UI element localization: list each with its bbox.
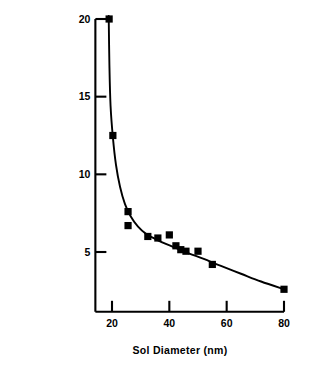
x-tick-label: 20 [106,317,118,329]
x-tick-label: 40 [163,317,175,329]
y-tick-label: 20 [79,13,91,25]
data-point-marker [280,286,287,293]
chart-figure: Vol. Citrate (ml) Sol Diameter (nm) 5101… [0,0,312,366]
y-axis-ticks: 5101520 [79,13,107,258]
y-tick-label: 5 [85,246,91,258]
data-point-marker [124,208,131,215]
plot-area: 5101520 20406080 [0,0,312,366]
y-tick-label: 10 [79,168,91,180]
data-points-group [106,15,288,292]
data-point-marker [182,248,189,255]
data-point-marker [144,233,151,240]
data-point-marker [209,261,216,268]
data-point-marker [194,248,201,255]
data-point-marker [154,234,161,241]
data-point-marker [124,222,131,229]
y-tick-label: 15 [79,90,91,102]
axes [95,19,284,312]
x-axis-ticks: 20406080 [106,301,290,329]
x-tick-label: 60 [221,317,233,329]
data-point-marker [166,231,173,238]
x-tick-label: 80 [278,317,290,329]
x-axis-label: Sol Diameter (nm) [24,344,312,356]
data-point-marker [109,132,116,139]
data-point-marker [106,15,113,22]
